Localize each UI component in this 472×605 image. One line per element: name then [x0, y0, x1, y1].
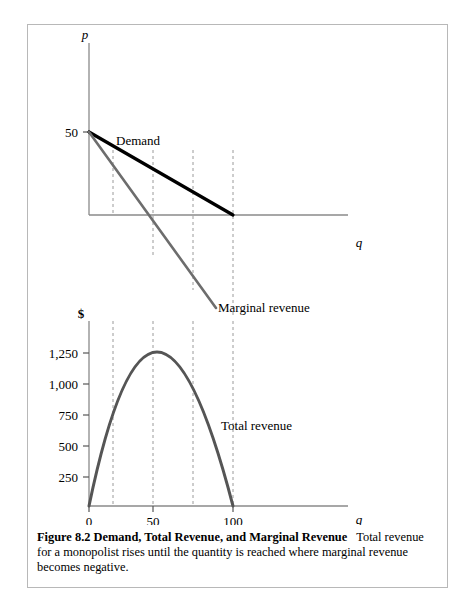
xtick-100-label: 100 — [223, 514, 243, 525]
marginal-revenue-series-label: Marginal revenue — [218, 300, 310, 315]
bottom-chart-xticks: 0 50 100 — [86, 506, 243, 525]
total-revenue-series-label: Total revenue — [221, 418, 292, 433]
ytick-1250-label: 1,250 — [49, 346, 78, 361]
total-revenue-curve — [89, 352, 233, 506]
ytick-250-label: 250 — [59, 470, 79, 485]
top-chart-y-axis-label: p — [81, 27, 89, 42]
top-chart: p q 50 Demand Marginal revenue — [65, 27, 363, 315]
top-chart-ytick-50-label: 50 — [65, 125, 78, 140]
top-chart-gridlines — [113, 150, 233, 315]
figure-svg: p q 50 Demand Marginal revenue — [28, 25, 449, 525]
xtick-0-label: 0 — [86, 514, 93, 525]
bottom-chart-gridlines — [113, 321, 233, 506]
top-chart-x-axis-label: q — [356, 235, 363, 250]
demand-line — [89, 132, 233, 215]
figure-caption: Figure 8.2 Demand, Total Revenue, and Ma… — [37, 530, 441, 576]
bottom-chart-yticks: 1,250 1,000 750 500 250 — [49, 346, 89, 485]
demand-series-label: Demand — [116, 133, 161, 148]
ytick-500-label: 500 — [59, 439, 79, 454]
figure-frame: p q 50 Demand Marginal revenue — [27, 24, 448, 588]
bottom-chart-x-axis-label: q — [356, 512, 363, 525]
bottom-chart: $ q 1,250 1,000 750 500 250 — [49, 306, 363, 525]
xtick-50-label: 50 — [147, 514, 160, 525]
bottom-chart-y-axis-label: $ — [78, 306, 85, 321]
figure-caption-title: Figure 8.2 Demand, Total Revenue, and Ma… — [37, 530, 347, 544]
ytick-1000-label: 1,000 — [49, 377, 78, 392]
chart-area: p q 50 Demand Marginal revenue — [28, 25, 449, 525]
ytick-750-label: 750 — [59, 408, 79, 423]
